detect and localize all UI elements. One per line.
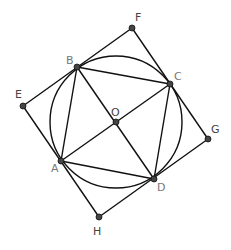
label-e: E [15,89,22,100]
label-h: H [93,226,101,237]
diagram-canvas [0,0,231,250]
point-h[interactable] [96,214,102,220]
label-g: G [211,124,220,135]
point-b[interactable] [74,64,80,70]
geometry-diagram: B C A D O E F G H [0,0,231,250]
point-e[interactable] [20,103,26,109]
point-f[interactable] [129,25,135,31]
label-a: A [51,163,59,174]
label-f: F [135,12,141,23]
segment-cd [154,84,170,179]
point-g[interactable] [205,136,211,142]
label-b: B [66,55,74,66]
segment-da [61,161,154,179]
point-o[interactable] [113,119,119,125]
label-c: C [174,71,182,82]
point-c[interactable] [167,81,173,87]
label-o: O [111,107,120,118]
label-d: D [157,182,165,193]
